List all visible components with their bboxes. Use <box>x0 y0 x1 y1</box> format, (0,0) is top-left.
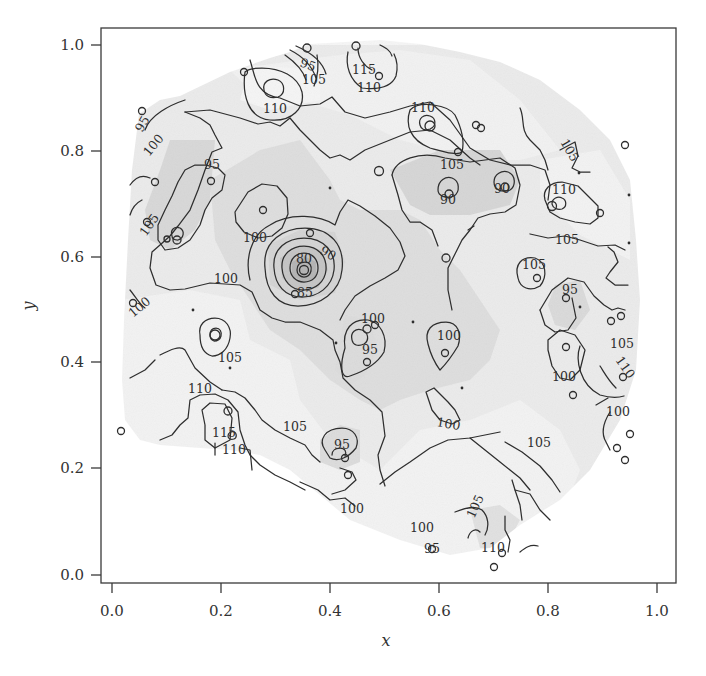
x-tick-label: 0.6 <box>427 602 451 620</box>
contour-label: 105 <box>283 419 307 434</box>
contour-label: 95 <box>562 282 578 297</box>
contour-label: 100 <box>606 404 630 419</box>
y-tick-label: 0.6 <box>60 248 84 266</box>
contour-label: 115 <box>212 425 236 440</box>
contour-label: 100 <box>340 501 364 516</box>
contour-label: 100 <box>437 328 461 343</box>
contour-label: 105 <box>610 336 634 351</box>
x-axis-label: x <box>381 631 390 650</box>
contour-label: 100 <box>410 520 434 535</box>
contour-label: 110 <box>357 80 381 95</box>
contour-label: 80 <box>296 251 312 266</box>
contour-label: 110 <box>188 381 212 396</box>
contour-label: 100 <box>214 271 238 286</box>
contour-label: 105 <box>440 157 464 172</box>
contour-label: 115 <box>352 62 376 77</box>
contour-label: 90 <box>494 181 510 196</box>
contour-label: 90 <box>440 192 456 207</box>
x-tick-label: 0.0 <box>100 602 124 620</box>
y-tick-label: 0.8 <box>60 142 84 160</box>
contour-label: 100 <box>552 369 576 384</box>
x-tick-label: 0.8 <box>536 602 560 620</box>
contour-label: 95 <box>334 437 350 452</box>
contour-label: 105 <box>522 257 546 272</box>
contour-label: 85 <box>297 285 313 300</box>
y-tick-label: 0.4 <box>60 353 84 371</box>
x-axis: 0.0 0.2 0.4 0.6 0.8 1.0 x <box>100 583 669 650</box>
y-tick-label: 0.0 <box>60 566 84 584</box>
contour-label: 95 <box>362 342 378 357</box>
contour-label: 110 <box>552 182 576 197</box>
contour-label: 95 <box>204 157 220 172</box>
contour-label: 110 <box>263 101 287 116</box>
contour-label: 105 <box>302 72 326 87</box>
y-axis: 1.0 0.8 0.6 0.4 0.2 0.0 y <box>19 36 101 584</box>
contour-label: 95 <box>424 541 440 556</box>
contour-label: 110 <box>411 100 435 115</box>
x-tick-label: 1.0 <box>645 602 669 620</box>
x-tick-label: 0.4 <box>318 602 342 620</box>
contour-label: 105 <box>218 350 242 365</box>
x-tick-label: 0.2 <box>209 602 233 620</box>
contour-chart: 95 105 115 110 110 110 105 95 100 95 105… <box>0 0 706 676</box>
contour-label: 100 <box>243 230 267 245</box>
domain-fill <box>100 30 680 590</box>
y-axis-label: y <box>19 301 38 312</box>
contour-label: 105 <box>555 232 579 247</box>
contour-label: 110 <box>222 442 246 457</box>
contour-label: 100 <box>361 311 385 326</box>
y-tick-label: 1.0 <box>60 36 84 54</box>
contour-label: 105 <box>527 435 551 450</box>
contour-label: 110 <box>481 540 505 555</box>
y-tick-label: 0.2 <box>60 459 84 477</box>
